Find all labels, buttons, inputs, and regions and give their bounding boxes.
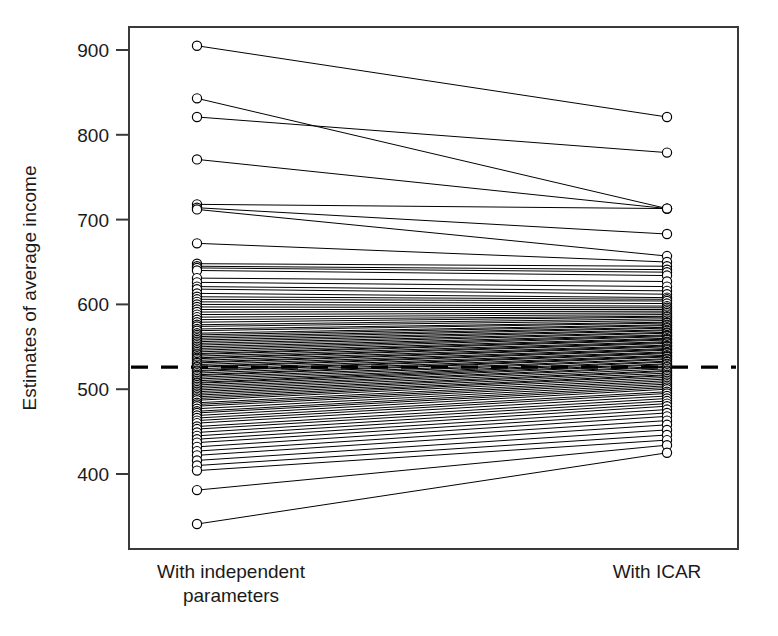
x-axis-label-left-line2: parameters [183, 585, 279, 606]
data-point-left [192, 41, 201, 50]
data-point-left [192, 155, 201, 164]
data-point-left [192, 519, 201, 528]
y-tick-label: 400 [77, 464, 109, 485]
y-tick-label: 500 [77, 379, 109, 400]
x-axis-label-right: With ICAR [613, 561, 702, 582]
data-point-left [192, 239, 201, 248]
x-axis-label-left-line1: With independent [157, 561, 306, 582]
y-tick-label: 700 [77, 210, 109, 231]
data-point-right [662, 229, 671, 238]
data-point-right [662, 204, 671, 213]
data-point-left [192, 486, 201, 495]
data-point-left [192, 205, 201, 214]
data-point-left [192, 466, 201, 475]
data-point-left [192, 112, 201, 121]
y-tick-label: 600 [77, 294, 109, 315]
data-point-right [662, 148, 671, 157]
y-tick-label: 900 [77, 40, 109, 61]
data-point-right [662, 112, 671, 121]
y-axis-label: Estimates of average income [19, 165, 40, 410]
y-tick-label: 800 [77, 125, 109, 146]
data-point-right [662, 448, 671, 457]
data-point-left [192, 94, 201, 103]
slopegraph-figure: 400500600700800900 Estimates of average … [0, 0, 778, 636]
